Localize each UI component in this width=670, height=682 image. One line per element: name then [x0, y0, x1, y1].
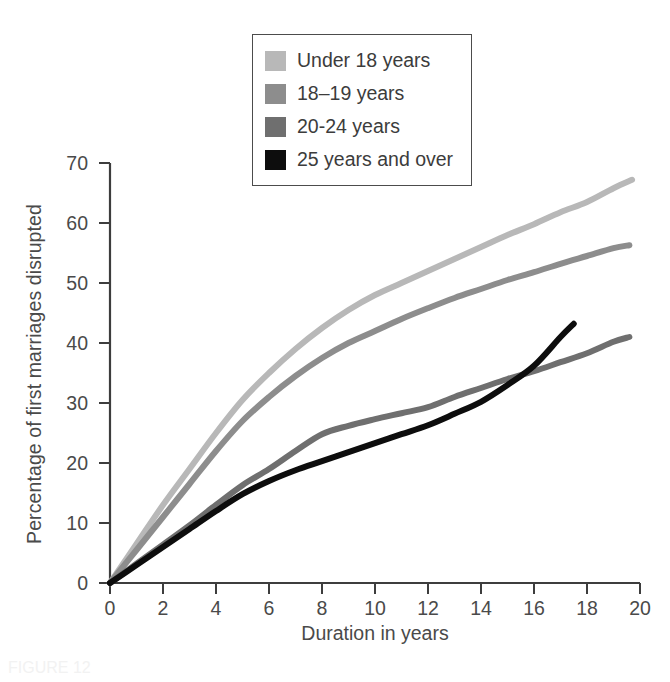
x-tick-label: 16 — [514, 597, 554, 620]
y-tick-label: 30 — [44, 392, 88, 415]
caption-remnant: FIGURE 12 — [8, 659, 91, 677]
x-tick-label: 18 — [567, 597, 607, 620]
legend-swatch-20-24 — [265, 117, 286, 137]
x-axis-title: Duration in years — [110, 622, 640, 645]
legend: Under 18 years 18–19 years 20-24 years 2… — [252, 34, 472, 186]
legend-label-20-24: 20-24 years — [297, 117, 400, 137]
legend-swatch-18-19 — [265, 84, 286, 104]
legend-item-20-24[interactable]: 20-24 years — [265, 110, 471, 143]
chart-figure: Percentage of first marriages disrupted … — [0, 0, 670, 682]
y-tick-label: 60 — [44, 212, 88, 235]
x-tick-label: 0 — [90, 597, 130, 620]
axis-lines — [110, 163, 640, 583]
y-axis-ticks — [99, 163, 110, 583]
legend-swatch-under-18 — [265, 51, 286, 71]
y-tick-label: 0 — [44, 572, 88, 595]
series-line-20-24-years — [110, 337, 629, 583]
y-tick-label: 50 — [44, 272, 88, 295]
x-tick-label: 8 — [302, 597, 342, 620]
x-tick-label: 12 — [408, 597, 448, 620]
legend-item-18-19[interactable]: 18–19 years — [265, 77, 471, 110]
x-tick-label: 2 — [143, 597, 183, 620]
series-line-25-years-and-over — [110, 324, 574, 583]
legend-item-under-18[interactable]: Under 18 years — [265, 44, 471, 77]
y-tick-label: 10 — [44, 512, 88, 535]
series-line-under-18-years — [110, 180, 632, 583]
y-tick-label: 40 — [44, 332, 88, 355]
x-tick-label: 10 — [355, 597, 395, 620]
legend-label-25-over: 25 years and over — [297, 150, 453, 170]
x-tick-label: 6 — [249, 597, 289, 620]
x-tick-label: 14 — [461, 597, 501, 620]
x-tick-label: 20 — [620, 597, 660, 620]
y-tick-label: 20 — [44, 452, 88, 475]
legend-label-18-19: 18–19 years — [297, 84, 404, 104]
legend-item-25-over[interactable]: 25 years and over — [265, 143, 471, 176]
data-series-layer — [110, 180, 632, 583]
x-axis-ticks — [110, 583, 640, 594]
legend-label-under-18: Under 18 years — [297, 51, 430, 71]
x-tick-label: 4 — [196, 597, 236, 620]
legend-swatch-25-over — [265, 150, 286, 170]
y-tick-label: 70 — [44, 152, 88, 175]
